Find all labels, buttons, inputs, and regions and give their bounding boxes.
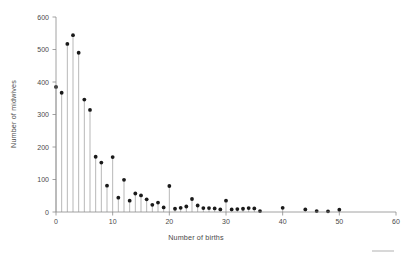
x-tick-label: 60 bbox=[392, 218, 400, 225]
data-point-marker bbox=[190, 197, 194, 201]
data-point-marker bbox=[184, 205, 188, 209]
x-tick-label: 30 bbox=[222, 218, 230, 225]
data-point-marker bbox=[218, 208, 222, 212]
page-corner-smudge bbox=[372, 250, 394, 252]
x-tick-label: 10 bbox=[109, 218, 117, 225]
data-point-marker bbox=[99, 161, 103, 165]
data-point-marker bbox=[65, 42, 69, 46]
data-point-marker bbox=[241, 207, 245, 211]
x-tick-label: 0 bbox=[54, 218, 58, 225]
data-point-marker bbox=[116, 196, 120, 200]
data-point-marker bbox=[247, 206, 251, 210]
data-point-marker bbox=[133, 192, 137, 196]
data-point-marker bbox=[105, 184, 109, 188]
data-point-marker bbox=[201, 206, 205, 210]
data-point-marker bbox=[82, 98, 86, 102]
data-point-marker bbox=[224, 199, 228, 203]
data-point-marker bbox=[162, 206, 166, 210]
data-point-marker bbox=[88, 108, 92, 112]
data-point-marker bbox=[71, 33, 75, 37]
data-point-marker bbox=[145, 197, 149, 201]
x-tick-label: 50 bbox=[335, 218, 343, 225]
x-tick-label: 40 bbox=[279, 218, 287, 225]
data-point-marker bbox=[326, 209, 330, 213]
data-point-marker bbox=[122, 178, 126, 182]
data-point-marker bbox=[230, 208, 234, 212]
data-point-marker bbox=[94, 155, 98, 159]
x-tick-label: 20 bbox=[165, 218, 173, 225]
y-axis-title: Number of midwives bbox=[9, 80, 18, 148]
y-tick-label: 100 bbox=[37, 176, 49, 183]
y-tick-label: 600 bbox=[37, 14, 49, 21]
data-point-marker bbox=[207, 206, 211, 210]
data-point-marker bbox=[337, 208, 341, 212]
stem-plot-figure: 0100200300400500600 0102030405060 Number… bbox=[0, 0, 411, 259]
data-point-marker bbox=[156, 201, 160, 205]
data-point-marker bbox=[167, 184, 171, 188]
data-point-marker bbox=[173, 207, 177, 211]
data-point-marker bbox=[213, 207, 217, 211]
y-tick-label: 400 bbox=[37, 79, 49, 86]
data-point-marker bbox=[60, 91, 64, 95]
y-tick-label: 300 bbox=[37, 111, 49, 118]
y-tick-label: 500 bbox=[37, 46, 49, 53]
y-tick-label: 200 bbox=[37, 144, 49, 151]
data-point-marker bbox=[111, 155, 115, 159]
data-point-marker bbox=[303, 208, 307, 212]
data-point-marker bbox=[235, 207, 239, 211]
data-point-marker bbox=[281, 206, 285, 210]
data-point-marker bbox=[252, 207, 256, 211]
data-point-marker bbox=[128, 199, 132, 203]
y-tick-label: 0 bbox=[45, 209, 49, 216]
x-axis-title: Number of births bbox=[168, 233, 224, 242]
data-point-marker bbox=[179, 206, 183, 210]
data-point-marker bbox=[77, 51, 81, 55]
data-point-marker bbox=[139, 194, 143, 198]
data-point-marker bbox=[150, 203, 154, 207]
data-point-marker bbox=[196, 204, 200, 208]
